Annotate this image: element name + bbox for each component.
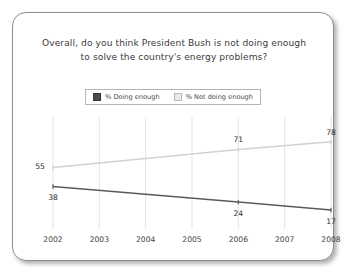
x-tick-2007: 2007 [275, 235, 294, 244]
data-label: 71 [233, 135, 243, 144]
page-title: Overall, do you think President Bush is … [27, 37, 321, 64]
chart-plot-area: 557178382417 [53, 117, 331, 229]
page-title-line-1: Overall, do you think President Bush is … [27, 37, 321, 51]
chart-card: Overall, do you think President Bush is … [12, 12, 334, 261]
data-label: 17 [326, 216, 336, 225]
dark-swatch-icon [93, 93, 101, 101]
x-tick-2008: 2008 [321, 235, 340, 244]
x-tick-2002: 2002 [43, 235, 62, 244]
data-label: 24 [233, 209, 243, 218]
legend-label-doing-enough: % Doing enough [105, 93, 160, 101]
legend-item-doing-enough: % Doing enough [93, 93, 160, 101]
x-tick-2006: 2006 [229, 235, 248, 244]
legend-item-not-doing-enough: % Not doing enough [174, 93, 253, 101]
chart-legend: % Doing enough % Not doing enough [85, 89, 261, 105]
x-tick-2005: 2005 [182, 235, 201, 244]
data-label: 78 [326, 127, 336, 136]
x-axis-tick-labels: 2002200320042005200620072008 [53, 235, 331, 247]
x-tick-2004: 2004 [136, 235, 155, 244]
x-tick-2003: 2003 [90, 235, 109, 244]
screenshot-root: Overall, do you think President Bush is … [0, 0, 347, 279]
light-swatch-icon [174, 93, 182, 101]
line-chart-svg [53, 117, 331, 229]
page-title-line-2: to solve the country's energy problems? [27, 51, 321, 65]
data-label: 38 [48, 193, 58, 202]
legend-label-not-doing-enough: % Not doing enough [186, 93, 253, 101]
data-label: 55 [35, 162, 45, 171]
